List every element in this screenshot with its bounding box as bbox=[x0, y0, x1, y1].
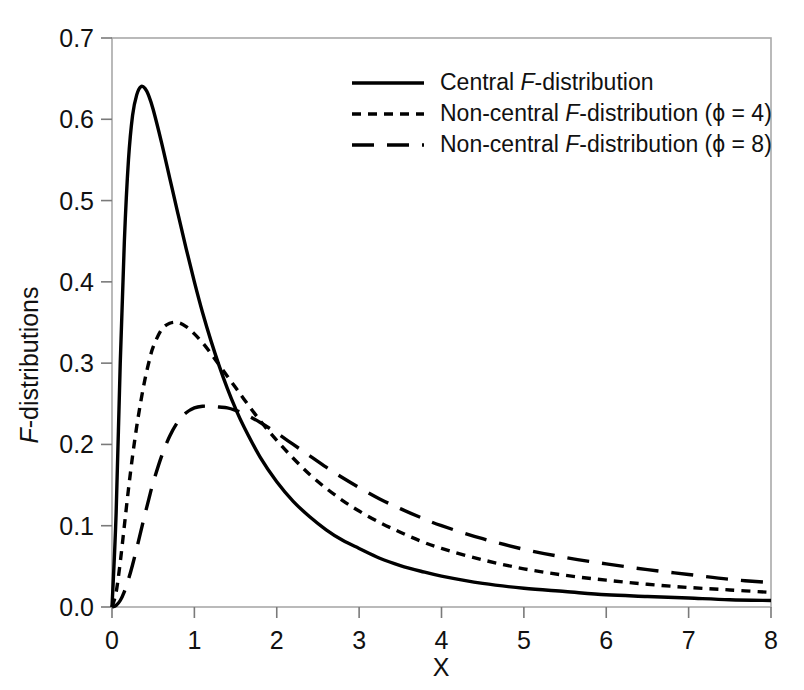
x-tick-label: 7 bbox=[682, 626, 696, 654]
y-axis-title: F-distributions bbox=[15, 286, 43, 443]
x-tick-label: 0 bbox=[105, 626, 119, 654]
x-tick-label: 5 bbox=[517, 626, 531, 654]
x-tick-label: 1 bbox=[187, 626, 201, 654]
legend-label-0: Central F-distribution bbox=[440, 69, 654, 95]
f-distribution-chart: 0.00.10.20.30.40.50.60.7 012345678 F-dis… bbox=[0, 0, 804, 690]
legend-label-1: Non-central F-distribution (ϕ = 4) bbox=[440, 100, 772, 126]
x-axis-title: X bbox=[433, 653, 450, 681]
y-tick-label: 0.5 bbox=[59, 187, 94, 215]
x-tick-label: 8 bbox=[764, 626, 778, 654]
x-tick-label: 2 bbox=[270, 626, 284, 654]
y-tick-label: 0.2 bbox=[59, 430, 94, 458]
y-tick-label: 0.4 bbox=[59, 268, 94, 296]
x-tick-label: 4 bbox=[435, 626, 449, 654]
x-tick-label: 6 bbox=[599, 626, 613, 654]
y-tick-label: 0.3 bbox=[59, 349, 94, 377]
y-tick-label: 0.7 bbox=[59, 24, 94, 52]
figure-container: 0.00.10.20.30.40.50.60.7 012345678 F-dis… bbox=[0, 0, 804, 690]
y-tick-label: 0.6 bbox=[59, 105, 94, 133]
legend-label-2: Non-central F-distribution (ϕ = 8) bbox=[440, 131, 772, 157]
x-tick-label: 3 bbox=[352, 626, 366, 654]
y-tick-label: 0.0 bbox=[59, 593, 94, 621]
y-tick-label: 0.1 bbox=[59, 512, 94, 540]
